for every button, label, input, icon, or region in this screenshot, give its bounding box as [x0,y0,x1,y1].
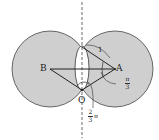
fraction-numerator: 2 [88,109,93,115]
angle-label-2pi-over-3: 2 3 π [88,109,98,123]
angle-label-pi-over-3: π 3 [125,76,130,90]
geometry-diagram [0,0,159,140]
label-radius: 1 [98,47,102,54]
fraction-denominator: 3 [88,117,93,123]
fraction-numerator: π [126,75,130,82]
label-o: O [78,96,85,105]
point-o [81,89,84,92]
label-a: A [116,64,123,73]
label-b: B [40,64,47,73]
fraction-denominator: 3 [126,83,130,90]
pi-symbol: π [94,113,98,119]
